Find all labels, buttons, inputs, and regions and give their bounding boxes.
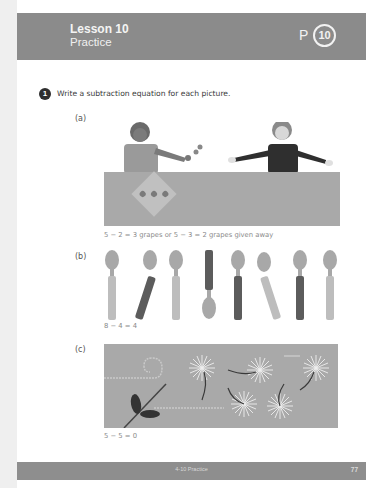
practice-label: P: [299, 27, 308, 43]
lesson-header: Lesson 10 Practice P 10: [17, 13, 366, 60]
part-a-label: (a): [75, 114, 86, 123]
practice-number-badge: 10: [313, 24, 336, 47]
footer-section-label: 4-10 Practice: [17, 466, 366, 472]
footer-page-number: 77: [351, 466, 358, 473]
lesson-title: Lesson 10: [70, 23, 129, 36]
spoons-picture: [104, 250, 340, 322]
part-c-label: (c): [75, 345, 86, 354]
part-a-answer: 5 − 2 = 3 grapes or 5 − 3 = 2 grapes giv…: [104, 231, 273, 239]
dandelion-picture: [104, 344, 338, 428]
grapes-picture: [104, 122, 340, 226]
part-b-answer: 8 − 4 = 4: [104, 322, 137, 330]
question-text: Write a subtraction equation for each pi…: [57, 88, 230, 100]
page-footer: 4-10 Practice 77: [17, 462, 366, 480]
part-b-label: (b): [75, 252, 86, 261]
part-c-answer: 5 − 5 = 0: [104, 432, 137, 440]
question-number: 1: [39, 88, 51, 100]
lesson-subtitle: Practice: [70, 36, 112, 49]
